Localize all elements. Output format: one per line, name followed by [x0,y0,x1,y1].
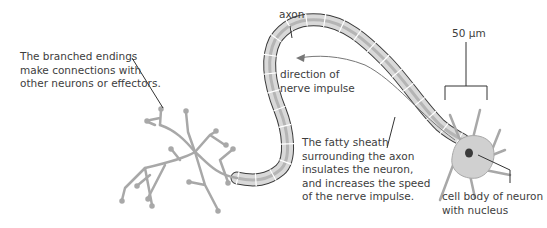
label-line: insulates the neuron, [302,163,430,177]
scale-bar [445,42,487,100]
label-line: with nucleus [442,204,543,218]
axon-label: axon [279,8,304,22]
label-line: of the nerve impulse. [302,190,430,204]
cell-body [440,110,510,200]
branched-endings [122,110,237,210]
label-line: The branched endings [20,50,161,64]
label-line: direction of [280,68,355,82]
branched-endings-label: The branched endings make connections wi… [20,50,161,91]
fatty-sheath-label: The fatty sheath surrounding the axon in… [302,136,430,204]
scale-label: 50 µm [452,27,486,41]
label-line: and increases the speed [302,177,430,191]
direction-label: direction of nerve impulse [280,68,355,95]
cell-body-label: cell body of neuron with nucleus [442,190,543,217]
label-line: surrounding the axon [302,150,430,164]
nucleus [465,149,473,158]
label-line: cell body of neuron [442,190,543,204]
label-line: make connections with [20,64,161,78]
label-line: nerve impulse [280,82,355,96]
label-line: other neurons or effectors. [20,77,161,91]
label-line: The fatty sheath [302,136,430,150]
